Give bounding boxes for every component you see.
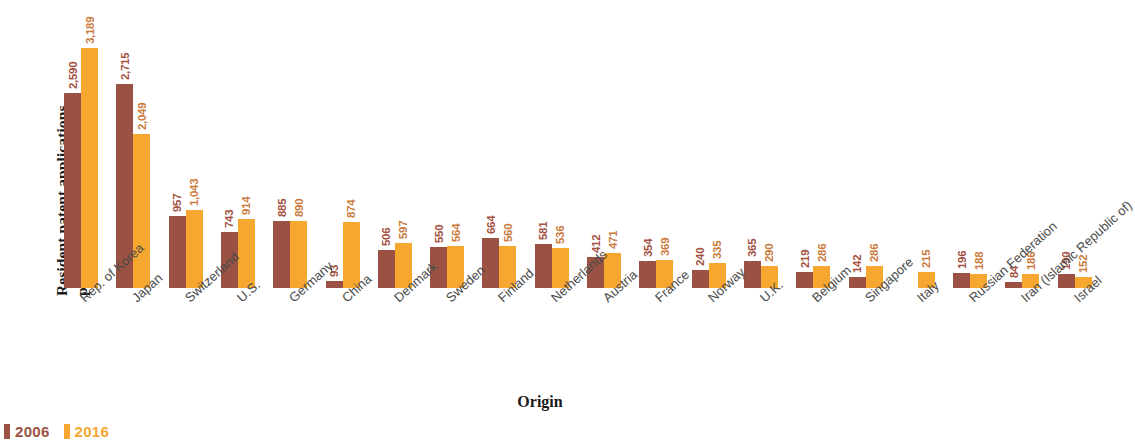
bar-value-label: 564 [450,223,462,241]
bar-value-label: 890 [293,199,305,217]
bar-value-label: 219 [799,249,811,267]
bar-2006[interactable]: 84 [1005,282,1022,288]
bar-group-bars: 664560 [482,14,516,288]
bar-value-label: 536 [554,225,566,243]
bar-value-label: 597 [397,221,409,239]
bar-group-bars: 219286 [796,14,830,288]
bar-group-bars: 885890 [273,14,307,288]
bar-group-bars: 412471 [587,14,621,288]
bar-2006[interactable]: 581 [535,244,552,288]
bar-group: 196188 [953,14,987,288]
bar-value-label: 188 [973,252,985,270]
bar-value-label: 286 [816,244,828,262]
bar-group: 581536 [535,14,569,288]
bar-2006[interactable]: 2,590 [64,93,81,288]
x-axis-title-wrapper: Origin [0,393,1116,411]
bar-value-label: 1,043 [188,178,200,205]
bar-2006[interactable]: 664 [482,238,499,288]
bar-group: 9571,043 [169,14,203,288]
bar-value-label: 550 [433,224,445,242]
bar-group: 219286 [796,14,830,288]
bar-value-label: 2,049 [136,103,148,130]
bar-2006[interactable]: 142 [849,277,866,288]
bar-group: 885890 [273,14,307,288]
bar-value-label: 664 [485,216,497,234]
legend-label: 2016 [75,423,110,440]
bar-value-label: 885 [276,199,288,217]
bar-value-label: 743 [223,210,235,228]
legend-item-2016[interactable]: 2016 [64,423,110,440]
bar-group-bars: 9571,043 [169,14,203,288]
bar-value-label: 215 [920,250,932,268]
bar-group: 142286 [849,14,883,288]
bar-2006[interactable]: 93 [326,281,343,288]
bar-value-label: 471 [607,230,619,248]
bar-value-label: 240 [694,248,706,266]
bar-2006[interactable]: 354 [639,261,656,288]
bar-group-bars: 196188 [953,14,987,288]
bar-2006[interactable]: 240 [692,270,709,288]
bar-group: 240335 [692,14,726,288]
bar-group-bars: 581536 [535,14,569,288]
bar-group: 354369 [639,14,673,288]
bar-2006[interactable]: 219 [796,272,813,288]
bar-value-label: 354 [642,239,654,257]
y-axis-title-wrapper: Resident patent applicationsper million … [0,0,58,300]
bar-value-label: 2,590 [67,62,79,89]
legend-item-2006[interactable]: 2006 [4,423,50,440]
bar-group-bars: 354369 [639,14,673,288]
bar-value-label: 914 [240,197,252,215]
bar-group: 412471 [587,14,621,288]
bar-value-label: 365 [746,238,758,256]
bar-2006[interactable]: 957 [169,216,186,288]
bar-value-label: 581 [537,222,549,240]
bar-2016[interactable]: 3,189 [81,48,98,288]
bar-group: 550564 [430,14,464,288]
legend: 20062016 [4,423,109,440]
legend-swatch-icon [4,424,10,439]
bar-group-bars: 215 [901,14,935,288]
bar-value-label: 335 [711,241,723,259]
x-axis-tick-labels: Rep. of KoreaJapanSwitzerlandU.S.Germany… [58,290,1113,390]
bar-group-bars: 365290 [744,14,778,288]
bar-value-label: 560 [502,224,514,242]
bar-group: 743914 [221,14,255,288]
plot-area: 2,5903,1892,7152,0499571,043743914885890… [58,14,1113,288]
bar-2006[interactable]: 506 [378,250,395,288]
bar-group: 2,5903,189 [64,14,98,288]
bar-group-bars: 142286 [849,14,883,288]
bar-value-label: 957 [171,194,183,212]
bar-value-label: 2,715 [119,52,131,79]
bar-group-bars: 550564 [430,14,464,288]
bar-group-bars: 93874 [326,14,360,288]
bar-group-bars: 506597 [378,14,412,288]
bar-value-label: 369 [659,238,671,256]
bar-value-label: 196 [956,251,968,269]
legend-label: 2006 [15,423,50,440]
legend-swatch-icon [64,424,70,439]
bar-group: 93874 [326,14,360,288]
bar-2006[interactable]: 196 [953,273,970,288]
bar-2016[interactable]: 2,049 [133,134,150,288]
bar-group-bars: 2,5903,189 [64,14,98,288]
bar-value-label: 874 [345,200,357,218]
bar-group: 215 [901,14,935,288]
bar-value-label: 142 [851,255,863,273]
bar-group: 664560 [482,14,516,288]
bar-value-label: 3,189 [84,17,96,44]
bar-group: 365290 [744,14,778,288]
bar-group-bars: 240335 [692,14,726,288]
bar-value-label: 290 [763,244,775,262]
bar-value-label: 286 [868,244,880,262]
x-axis-title: Origin [517,393,562,411]
bar-group: 506597 [378,14,412,288]
bar-2006[interactable]: 885 [273,221,290,288]
bar-value-label: 506 [380,228,392,246]
bar-group-bars: 743914 [221,14,255,288]
